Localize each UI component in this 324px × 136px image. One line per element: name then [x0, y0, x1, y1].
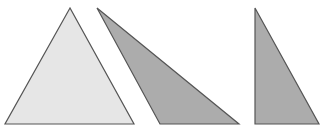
- diagram-svg: [0, 0, 324, 136]
- right-triangle: [255, 8, 319, 124]
- triangles-diagram: [0, 0, 324, 136]
